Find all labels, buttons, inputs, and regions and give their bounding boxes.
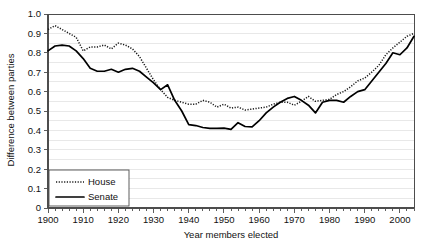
chart-legend: HouseSenate (49, 170, 129, 206)
x-tick-label: 1910 (73, 214, 94, 225)
line-chart: 1900191019201930194019501960197019801990… (0, 0, 426, 252)
x-tick-label: 2000 (389, 214, 410, 225)
x-tick-label: 1920 (108, 214, 129, 225)
x-tick-label: 1900 (37, 214, 58, 225)
y-axis-title: Difference between parties (5, 53, 16, 166)
x-axis-tick-labels: 1900191019201930194019501960197019801990… (37, 214, 410, 225)
x-tick-label: 1980 (319, 214, 340, 225)
y-tick-label: 0.8 (28, 47, 41, 58)
x-tick-label: 1970 (284, 214, 305, 225)
y-tick-label: 0.4 (28, 125, 41, 136)
x-tick-label: 1960 (249, 214, 270, 225)
x-tick-label: 1990 (354, 214, 375, 225)
y-tick-label: 0.5 (28, 105, 41, 116)
y-tick-label: 0.6 (28, 86, 41, 97)
y-tick-label: 0.1 (28, 183, 41, 194)
x-tick-label: 1930 (143, 214, 164, 225)
y-tick-label: 1.0 (28, 8, 41, 19)
x-tick-label: 1950 (213, 214, 234, 225)
y-tick-label: 0.9 (28, 28, 41, 39)
legend-label-house: House (88, 176, 115, 187)
y-tick-label: 0.2 (28, 164, 41, 175)
y-tick-label: 0 (36, 202, 41, 213)
x-tick-label: 1940 (178, 214, 199, 225)
y-tick-label: 0.3 (28, 144, 41, 155)
y-tick-label: 0.7 (28, 67, 41, 78)
legend-label-senate: Senate (88, 191, 118, 202)
chart-figure: 1900191019201930194019501960197019801990… (0, 0, 426, 252)
x-axis-title: Year members elected (184, 229, 279, 240)
